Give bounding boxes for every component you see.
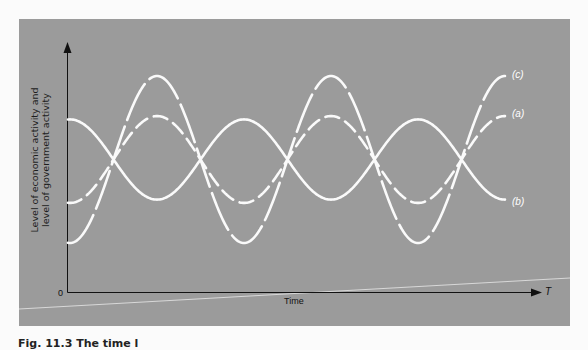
figure-caption: Fig. 11.3 The time l	[18, 337, 138, 350]
origin-label: 0	[58, 288, 63, 298]
curve-b	[68, 119, 505, 199]
y-axis-label-line1: Level of economic activity and	[29, 87, 40, 232]
x-axis-end-label: T	[545, 286, 552, 297]
x-axis-arrow-icon	[531, 289, 542, 297]
y-axis-label-line2: level of government activity	[40, 87, 51, 232]
curve-a-label: (a)	[512, 108, 524, 119]
curve-c-label: (c)	[512, 69, 524, 80]
y-axis-label: Level of economic activity and level of …	[22, 60, 58, 260]
y-axis-arrow-icon	[64, 42, 72, 53]
x-axis-label: Time	[284, 296, 304, 306]
curve-b-label: (b)	[512, 196, 524, 207]
